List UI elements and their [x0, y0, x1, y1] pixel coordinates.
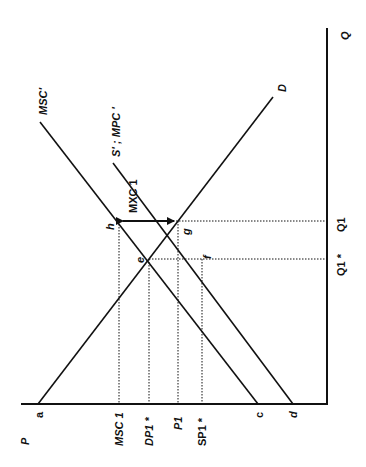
label-d: d [287, 411, 299, 418]
point-label-h: h [104, 223, 116, 230]
demand-curve [38, 97, 273, 404]
label-mxc: MXC 1 [127, 179, 139, 213]
point-label-g: g [180, 228, 192, 236]
label-q1star: Q1 * [335, 253, 347, 276]
label-p1: P1 [172, 417, 184, 430]
label-msc1: MSC 1 [113, 412, 125, 446]
label-sp1: SP1 * [196, 417, 208, 446]
label-curve-d: D [276, 84, 288, 92]
label-a: a [33, 411, 45, 418]
externality-diagram: P Q a MSC 1 DP1 * P1 SP1 * c d Q1 Q1 * D… [0, 0, 366, 467]
point-label-e: e [134, 257, 146, 263]
p-axis-label: P [19, 437, 31, 445]
label-q1: Q1 [335, 217, 347, 232]
point-label-f: f [201, 254, 213, 259]
q-axis-label: Q [339, 31, 351, 40]
label-curve-msc: MSC' [37, 88, 49, 115]
label-c: c [253, 412, 265, 418]
label-dp1: DP1 * [143, 417, 155, 446]
label-curve-s: S' ; MPC ' [110, 107, 122, 157]
supply-mpc-curve [113, 163, 293, 404]
